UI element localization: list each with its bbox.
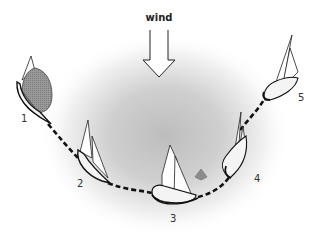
- boat-3-label: 3: [170, 213, 176, 224]
- sailing-diagram: wind 1 2 3: [0, 0, 321, 238]
- boat-1-label: 1: [21, 113, 27, 124]
- wind-label: wind: [146, 12, 173, 23]
- boat-5-label: 5: [298, 92, 304, 103]
- boat-4-label: 4: [254, 173, 260, 184]
- boat-2-label: 2: [77, 178, 83, 189]
- boat-5: [263, 35, 298, 100]
- diagram-canvas: wind 1 2 3: [0, 0, 321, 238]
